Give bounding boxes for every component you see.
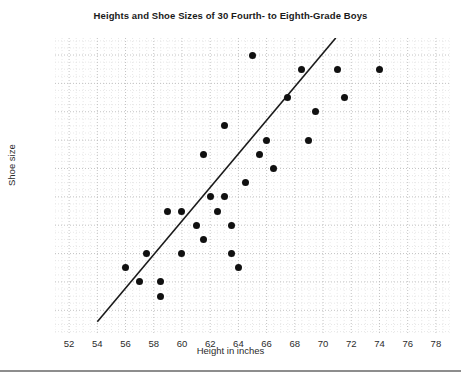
y-axis-title: Shoe size (6, 144, 17, 186)
data-point (200, 236, 207, 243)
x-axis-title: Height in inches (0, 345, 461, 356)
data-point (341, 94, 348, 101)
data-point (164, 208, 171, 215)
data-point (228, 250, 235, 257)
data-point (157, 293, 164, 300)
plot-area (55, 38, 450, 333)
data-point (178, 208, 185, 215)
page-divider (0, 370, 461, 372)
data-point (249, 52, 256, 59)
chart-figure: Heights and Shoe Sizes of 30 Fourth- to … (0, 0, 461, 380)
chart-title: Heights and Shoe Sizes of 30 Fourth- to … (0, 10, 461, 21)
data-point (263, 137, 270, 144)
data-point (334, 66, 341, 73)
data-point (193, 222, 200, 229)
data-point (207, 193, 214, 200)
plot-wrapper: 3456789101112525456586062646668707274767… (55, 38, 450, 333)
data-point (256, 151, 263, 158)
data-point (200, 151, 207, 158)
data-point (214, 208, 221, 215)
data-point (376, 66, 383, 73)
data-point (228, 222, 235, 229)
data-series-layer (55, 38, 450, 333)
